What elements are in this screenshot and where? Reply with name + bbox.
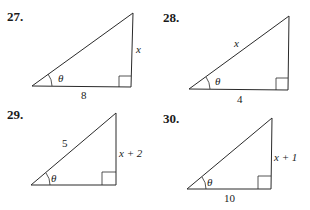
right-triangle — [187, 118, 272, 189]
angle-arc — [206, 77, 210, 89]
problem-number: 30. — [163, 111, 179, 126]
right-triangle — [189, 16, 289, 90]
adjacent-side-label: 10 — [224, 192, 236, 204]
problem-29: 29. θ 5 x + 2 — [7, 107, 143, 185]
right-angle-marker — [102, 172, 116, 185]
angle-arc — [46, 173, 50, 185]
angle-label: θ — [207, 176, 213, 188]
right-angle-marker — [258, 176, 271, 189]
problem-number: 28. — [163, 10, 179, 25]
opposite-side-label: x + 2 — [118, 147, 143, 159]
hypotenuse-label: x — [233, 37, 239, 49]
angle-arc — [48, 74, 52, 86]
angle-label: θ — [51, 172, 57, 184]
angle-label: θ — [215, 75, 221, 87]
angle-label: θ — [58, 72, 64, 84]
hypotenuse-label: 5 — [62, 137, 68, 149]
right-angle-marker — [119, 76, 131, 87]
right-triangle — [31, 113, 116, 185]
right-triangle — [32, 13, 133, 87]
angle-arc — [202, 177, 206, 189]
opposite-side-label: x — [135, 43, 141, 55]
problem-28: 28. θ 4 x — [163, 10, 289, 105]
adjacent-side-label: 8 — [81, 89, 87, 101]
problem-27: 27. θ 8 x — [7, 9, 141, 101]
right-angle-marker — [276, 78, 288, 90]
adjacent-side-label: 4 — [237, 93, 243, 105]
problem-number: 29. — [7, 107, 23, 122]
problem-number: 27. — [7, 9, 23, 24]
opposite-side-label: x + 1 — [273, 151, 297, 163]
triangle-exercises-figure: 27. θ 8 x 28. θ 4 x 29. θ 5 x + 2 30. θ … — [0, 0, 310, 210]
problem-30: 30. θ 10 x + 1 — [163, 111, 297, 204]
